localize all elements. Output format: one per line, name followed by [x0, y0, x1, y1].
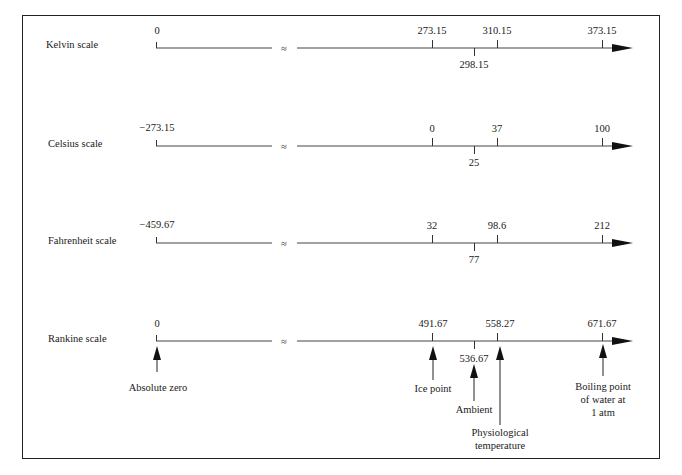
- ambient-arrow-icon: [470, 364, 478, 401]
- rankine-zero-value: 0: [154, 319, 159, 330]
- kelvin-ambient-value: 298.15: [460, 60, 489, 71]
- rankine-ice-point-value: 491.67: [419, 319, 448, 330]
- break-symbol-icon: ≈: [281, 337, 287, 348]
- fahrenheit-axis: [156, 235, 633, 251]
- celsius-physiological-value: 37: [492, 124, 503, 135]
- kelvin-physiological-value: 310.15: [483, 26, 512, 37]
- break-symbol-icon: ≈: [281, 142, 287, 153]
- rankine-physiological-value: 558.27: [486, 319, 515, 330]
- physiological-temperature-label: Physiological temperature: [471, 426, 528, 452]
- celsius-ambient-value: 25: [469, 158, 480, 169]
- boiling-label-line2: of water at: [575, 393, 631, 406]
- absolute-zero-arrow-icon: [153, 346, 161, 372]
- celsius-boiling-value: 100: [594, 124, 610, 135]
- break-symbol-icon: ≈: [281, 44, 287, 55]
- physiological-arrow-icon: [496, 346, 504, 425]
- break-symbol-icon: ≈: [281, 239, 287, 250]
- celsius-zero-value: −273.15: [140, 123, 175, 134]
- fahrenheit-ambient-value: 77: [469, 255, 480, 266]
- fahrenheit-scale-label: Fahrenheit scale: [48, 236, 117, 247]
- boiling-label-line3: 1 atm: [575, 406, 631, 419]
- fahrenheit-boiling-value: 212: [594, 221, 610, 232]
- kelvin-axis: [156, 40, 633, 56]
- rankine-axis: [156, 333, 633, 349]
- fahrenheit-ice-point-value: 32: [427, 221, 438, 232]
- physiological-label-line1: Physiological: [471, 426, 528, 439]
- fahrenheit-physiological-value: 98.6: [488, 221, 506, 232]
- rankine-ambient-value: 536.67: [460, 354, 489, 365]
- celsius-scale-label: Celsius scale: [48, 139, 103, 150]
- absolute-zero-label: Absolute zero: [129, 383, 188, 394]
- boiling-label-line1: Boiling point: [575, 380, 631, 393]
- kelvin-ice-point-value: 273.15: [418, 26, 447, 37]
- ambient-label: Ambient: [456, 405, 493, 416]
- kelvin-zero-value: 0: [154, 26, 159, 37]
- fahrenheit-zero-value: −459.67: [140, 220, 175, 231]
- physiological-label-line2: temperature: [471, 439, 528, 452]
- kelvin-boiling-value: 373.15: [588, 26, 617, 37]
- boiling-point-label: Boiling point of water at 1 atm: [575, 380, 631, 419]
- kelvin-scale-label: Kelvin scale: [46, 40, 98, 51]
- celsius-axis: [156, 138, 633, 154]
- celsius-ice-point-value: 0: [429, 124, 434, 135]
- rankine-boiling-value: 671.67: [588, 319, 617, 330]
- rankine-scale-label: Rankine scale: [48, 334, 107, 345]
- boiling-point-arrow-icon: [599, 344, 607, 376]
- ice-point-arrow-icon: [429, 346, 437, 380]
- ice-point-label: Ice point: [414, 384, 451, 395]
